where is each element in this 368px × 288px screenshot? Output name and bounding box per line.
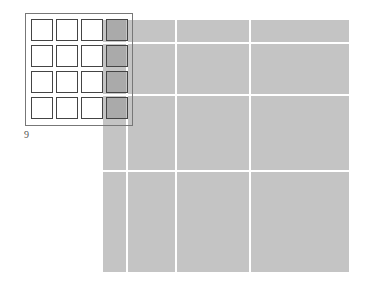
- large-grid-cell: [177, 172, 249, 272]
- small-grid-cell: [31, 97, 53, 119]
- large-grid-cell: [128, 96, 175, 170]
- large-grid-cell: [177, 20, 249, 42]
- small-grid-cell: [81, 97, 103, 119]
- large-grid-cell: [251, 44, 349, 94]
- large-grid-cell: [177, 96, 249, 170]
- small-grid-cell: [81, 45, 103, 67]
- large-grid-cell: [251, 20, 349, 42]
- small-grid-cell: [81, 71, 103, 93]
- small-grid-cell: [31, 71, 53, 93]
- large-grid-cell: [251, 172, 349, 272]
- small-grid-cell: [81, 19, 103, 41]
- large-grid-cell: [177, 44, 249, 94]
- small-grid-cell: [106, 97, 128, 119]
- small-grid-cell: [106, 19, 128, 41]
- small-grid-cell: [106, 71, 128, 93]
- large-grid-cell: [128, 172, 175, 272]
- large-grid-cell: [128, 44, 175, 94]
- small-grid-cell: [56, 97, 78, 119]
- large-grid-cell: [128, 20, 175, 42]
- small-grid-cell: [106, 45, 128, 67]
- large-grid-cell: [103, 172, 126, 272]
- small-grid-cell: [56, 19, 78, 41]
- small-grid-cell: [31, 45, 53, 67]
- small-grid-frame: [25, 13, 133, 126]
- large-gray-grid: [103, 20, 349, 272]
- small-grid-cell: [56, 71, 78, 93]
- small-grid-cell: [56, 45, 78, 67]
- large-grid-cell: [251, 96, 349, 170]
- figure-label: 9: [24, 129, 29, 140]
- small-grid-cell: [31, 19, 53, 41]
